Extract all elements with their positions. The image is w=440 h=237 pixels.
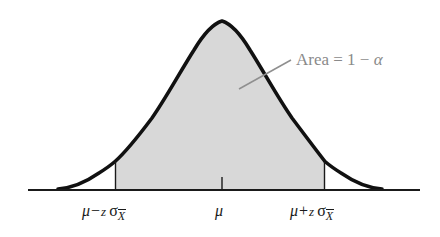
axis-label-mean: μ <box>215 203 223 219</box>
normal-distribution-figure: Area = 1 − α μ−zσX μ μ+zσX <box>0 0 440 237</box>
axis-label-upper-bound: μ+zσX <box>290 203 333 222</box>
mu-symbol: μ <box>290 202 298 219</box>
mu-symbol-center: μ <box>215 202 223 219</box>
shaded-confidence-area <box>115 21 325 190</box>
area-annotation-label: Area = 1 − α <box>296 51 383 68</box>
x-bar-subscript: X <box>326 210 333 222</box>
mu-symbol: μ <box>82 202 90 219</box>
minus-operator: − <box>90 202 101 219</box>
overbar <box>118 209 126 210</box>
alpha-symbol: α <box>374 50 383 69</box>
x-subscript-char: X <box>326 209 333 223</box>
axis-label-lower-bound: μ−zσX <box>82 203 125 222</box>
area-annotation-prefix: Area = 1 − <box>296 50 374 69</box>
overbar <box>326 209 334 210</box>
sigma-symbol: σ <box>314 202 326 219</box>
sigma-symbol: σ <box>106 202 118 219</box>
x-subscript-char: X <box>118 209 125 223</box>
x-bar-subscript: X <box>118 210 125 222</box>
plus-operator: + <box>298 202 309 219</box>
